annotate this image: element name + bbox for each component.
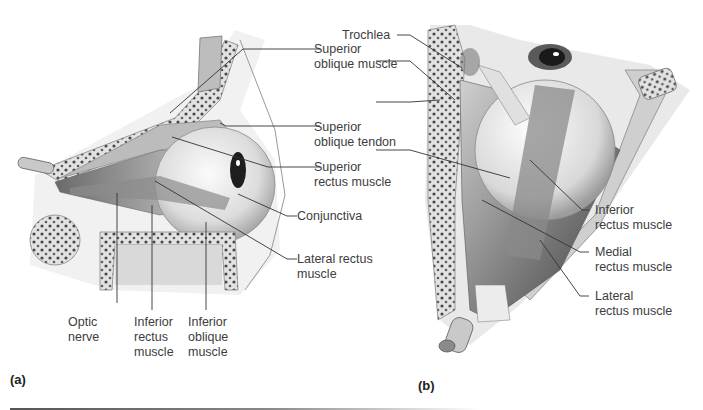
- label-line: oblique muscle: [314, 57, 397, 72]
- label-superior-rectus-muscle: Superior rectus muscle: [314, 160, 391, 190]
- label-line: rectus muscle: [595, 260, 672, 275]
- label-line: muscle: [134, 345, 174, 360]
- label-inferior-rectus-muscle-b: Inferior rectus muscle: [595, 203, 672, 233]
- label-line: Inferior: [595, 203, 672, 218]
- label-superior-oblique-tendon: Superior oblique tendon: [314, 120, 396, 150]
- label-line: Medial: [595, 245, 672, 260]
- label-medial-rectus-muscle: Medial rectus muscle: [595, 245, 672, 275]
- label-line: Lateral: [595, 289, 672, 304]
- label-line: Trochlea: [342, 28, 390, 43]
- label-line: Superior: [314, 42, 397, 57]
- label-line: rectus: [134, 330, 174, 345]
- label-line: Inferior: [188, 315, 228, 330]
- label-lateral-rectus-muscle-a: Lateral rectus muscle: [297, 252, 373, 282]
- label-line: oblique: [188, 330, 228, 345]
- label-optic-nerve: Optic nerve: [68, 315, 99, 345]
- label-line: Conjunctiva: [297, 209, 362, 224]
- label-line: Lateral rectus: [297, 252, 373, 267]
- label-superior-oblique-muscle: Superior oblique muscle: [314, 42, 397, 72]
- label-line: Inferior: [134, 315, 174, 330]
- label-line: oblique tendon: [314, 135, 396, 150]
- label-line: rectus muscle: [595, 304, 672, 319]
- panel-a-letter: (a): [10, 372, 26, 387]
- label-line: nerve: [68, 330, 99, 345]
- label-inferior-rectus-muscle-a: Inferior rectus muscle: [134, 315, 174, 360]
- label-line: rectus muscle: [314, 175, 391, 190]
- label-inferior-oblique-muscle: Inferior oblique muscle: [188, 315, 228, 360]
- label-line: muscle: [188, 345, 228, 360]
- panel-a-art: [17, 30, 285, 295]
- label-line: Superior: [314, 160, 391, 175]
- label-conjunctiva: Conjunctiva: [297, 209, 362, 224]
- panel-b-letter: (b): [418, 378, 435, 393]
- label-line: rectus muscle: [595, 218, 672, 233]
- label-lateral-rectus-muscle-b: Lateral rectus muscle: [595, 289, 672, 319]
- label-line: Optic: [68, 315, 99, 330]
- label-line: Superior: [314, 120, 396, 135]
- label-trochlea: Trochlea: [342, 28, 390, 43]
- label-line: muscle: [297, 267, 373, 282]
